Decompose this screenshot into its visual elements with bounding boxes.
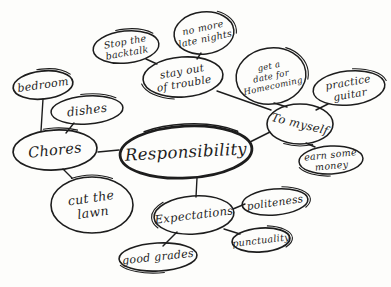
edge-expectations--punctuality — [224, 229, 240, 234]
edge-responsibility--to-myself — [250, 132, 270, 142]
bubble-label: politeness — [246, 192, 304, 212]
node-dishes: dishes — [47, 91, 126, 128]
bubble-label: dishes — [66, 101, 108, 120]
bubble-label: Responsibility — [124, 139, 248, 164]
node-earn-some-money: earn somemoney — [296, 142, 367, 178]
bubble-label: good grades — [121, 247, 194, 267]
node-bedroom: bedroom — [9, 66, 77, 105]
node-chores: Chores — [9, 126, 100, 175]
node-no-more-late-nights: no morelate nights — [169, 7, 238, 60]
node-punctuality: punctuality — [229, 224, 294, 256]
edge-chores--responsibility — [98, 150, 119, 152]
edge-responsibility--expectations — [196, 178, 197, 197]
bubble-label: Chores — [27, 139, 82, 161]
node-responsibility: Responsibility — [116, 120, 256, 183]
node-stay-out-of-trouble: stay outof trouble — [139, 52, 227, 102]
node-good-grades: good grades — [116, 239, 201, 275]
bubble-label: To myself — [270, 110, 331, 138]
bubble-label: money — [314, 158, 349, 172]
edge-chores--cut-the-lawn — [63, 169, 72, 178]
node-to-myself: To myself — [265, 102, 336, 146]
mindmap-canvas: ResponsibilityChoresbedroomdishescut the… — [0, 0, 391, 287]
bubble-label: Expectations — [153, 203, 234, 227]
bubble-label: bedroom — [17, 75, 70, 95]
node-practice-guitar: practiceguitar — [309, 65, 390, 111]
mindmap-page: ResponsibilityChoresbedroomdishescut the… — [0, 0, 391, 287]
node-expectations: Expectations — [150, 191, 238, 239]
node-cut-the-lawn: cut thelawn — [49, 175, 136, 235]
bubble-label: lawn — [76, 203, 109, 222]
node-politeness: politeness — [238, 184, 311, 220]
edge-bedroom--chores — [41, 99, 43, 131]
